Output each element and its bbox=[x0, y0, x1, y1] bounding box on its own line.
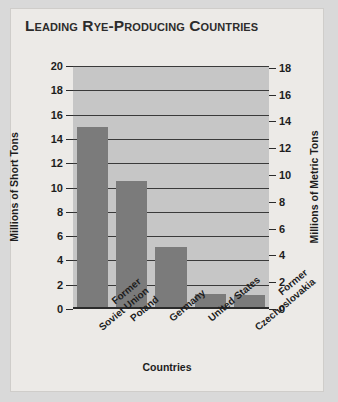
y-axis-left-tick bbox=[66, 90, 73, 91]
y-axis-right-title: Millions of Metric Tons bbox=[307, 66, 321, 307]
y-axis-right-tick-label: 10 bbox=[279, 169, 291, 181]
y-axis-right-tick bbox=[269, 95, 276, 96]
y-axis-right-tick-label: 16 bbox=[279, 89, 291, 101]
y-axis-right-tick bbox=[269, 255, 276, 256]
y-axis-right-tick-label: 6 bbox=[279, 223, 285, 235]
y-axis-right-tick bbox=[269, 68, 276, 69]
y-axis-left-tick bbox=[66, 212, 73, 213]
y-axis-left-title: Millions of Short Tons bbox=[7, 66, 21, 307]
y-axis-left-tick-label: 10 bbox=[51, 182, 63, 194]
page-title: Leading Rye-Producing Countries bbox=[25, 17, 305, 35]
y-axis-right-tick-label: 14 bbox=[279, 115, 291, 127]
y-axis-right-tick bbox=[269, 148, 276, 149]
bar bbox=[77, 127, 108, 307]
y-axis-right-tick-label: 18 bbox=[279, 62, 291, 74]
y-axis-left-tick-label: 4 bbox=[57, 254, 63, 266]
y-axis-right-tick bbox=[269, 229, 276, 230]
y-axis-right-tick-label: 4 bbox=[279, 249, 285, 261]
y-axis-right-tick bbox=[269, 121, 276, 122]
y-axis-right-title-text: Millions of Metric Tons bbox=[308, 130, 320, 243]
y-axis-left-tick bbox=[66, 309, 73, 310]
y-axis-right-tick-label: 8 bbox=[279, 196, 285, 208]
y-axis-right-tick-label: 12 bbox=[279, 142, 291, 154]
y-axis-left-tick bbox=[66, 163, 73, 164]
y-axis-left-tick-label: 14 bbox=[51, 133, 63, 145]
y-axis-left-title-text: Millions of Short Tons bbox=[8, 132, 20, 241]
y-axis-right-tick bbox=[269, 175, 276, 176]
y-axis-left-tick-label: 20 bbox=[51, 60, 63, 72]
y-axis-left-tick bbox=[66, 115, 73, 116]
gridline bbox=[73, 66, 269, 67]
y-axis-left-tick-label: 12 bbox=[51, 157, 63, 169]
y-axis-left-tick-label: 8 bbox=[57, 206, 63, 218]
y-axis-left-tick-label: 16 bbox=[51, 109, 63, 121]
gridline bbox=[73, 115, 269, 116]
chart-card: Leading Rye-Producing Countries Millions… bbox=[10, 8, 324, 392]
y-axis-left-tick-label: 6 bbox=[57, 230, 63, 242]
y-axis-right-tick bbox=[269, 202, 276, 203]
y-axis-left-tick bbox=[66, 236, 73, 237]
y-axis-left-tick-label: 2 bbox=[57, 279, 63, 291]
gridline bbox=[73, 90, 269, 91]
y-axis-left-tick bbox=[66, 139, 73, 140]
y-axis-left-tick bbox=[66, 188, 73, 189]
bar bbox=[155, 247, 186, 307]
y-axis-left-tick-label: 0 bbox=[57, 303, 63, 315]
plot-area: 02468101214161820024681012141618 bbox=[73, 66, 269, 309]
y-axis-left-tick-label: 18 bbox=[51, 84, 63, 96]
y-axis-right-tick bbox=[269, 282, 276, 283]
y-axis-left-tick bbox=[66, 66, 73, 67]
x-axis-title: Countries bbox=[11, 361, 323, 373]
y-axis-left-tick bbox=[66, 285, 73, 286]
y-axis-left-tick bbox=[66, 260, 73, 261]
